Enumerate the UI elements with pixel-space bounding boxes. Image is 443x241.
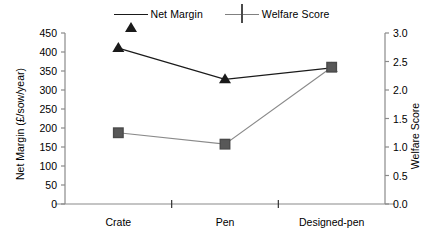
x-tick-label: Designed-pen [299, 216, 364, 228]
y-tick-label-right: 3.0 [393, 28, 408, 39]
y-tick-label-right: 0.5 [393, 170, 408, 181]
x-tick-label: Pen [216, 216, 235, 228]
data-series-layer [112, 42, 337, 149]
y-tick-label-right: 1.0 [393, 142, 408, 153]
y-tick-label-left: 50 [0, 180, 57, 191]
y-tick-label-left: 350 [0, 66, 57, 77]
y-tick-label-left: 250 [0, 104, 57, 115]
y-tick-label-left: 300 [0, 85, 57, 96]
plot-area [0, 0, 443, 241]
y-tick-label-left: 100 [0, 161, 57, 172]
x-tick-label: Crate [105, 216, 131, 228]
data-point-marker [220, 139, 230, 149]
y-tick-label-left: 450 [0, 28, 57, 39]
data-point-marker [112, 42, 124, 52]
y-tick-label-right: 1.5 [393, 113, 408, 124]
y-tick-label-right: 2.5 [393, 56, 408, 67]
y-tick-label-left: 400 [0, 47, 57, 58]
axis-lines [55, 33, 395, 208]
y-tick-label-left: 150 [0, 142, 57, 153]
y-tick-label-right: 2.0 [393, 85, 408, 96]
y-tick-label-left: 0 [0, 199, 57, 210]
y-tick-label-left: 200 [0, 123, 57, 134]
data-point-marker [114, 128, 124, 138]
y-tick-label-right: 0.0 [393, 199, 408, 210]
data-point-marker [327, 62, 337, 71]
chart-container: Net Margin Welfare Score Net Margin (£/s… [0, 0, 443, 241]
